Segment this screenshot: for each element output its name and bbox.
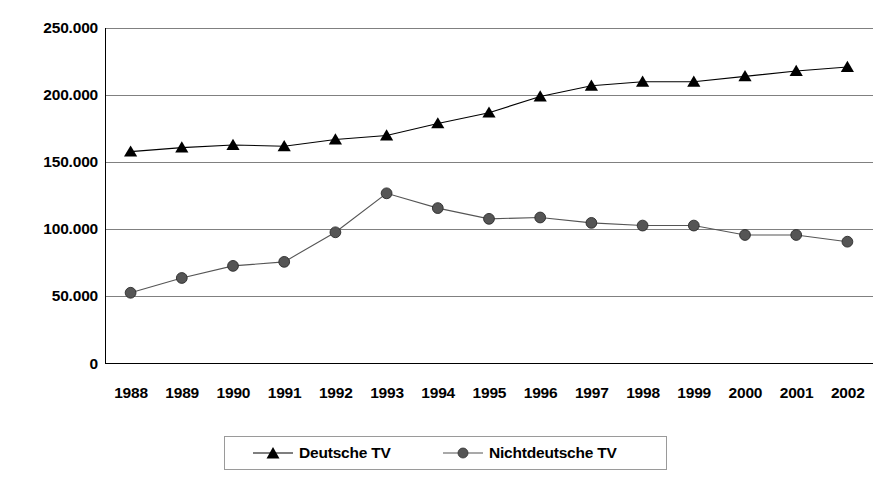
x-axis-tick-label: 1995 [463, 385, 515, 401]
x-axis-tick-label: 1998 [617, 385, 669, 401]
chart-container: 250.000 200.000 150.000 100.000 50.000 0… [0, 0, 885, 478]
series-line [131, 193, 848, 292]
y-axis-tick-label: 200.000 [0, 87, 98, 103]
plot-svg [105, 28, 873, 364]
axis-lines [105, 28, 873, 364]
data-point-circle [535, 212, 546, 223]
data-point-circle [586, 217, 597, 228]
data-point-circle [637, 220, 648, 231]
x-axis-tick-label: 1989 [156, 385, 208, 401]
x-axis-tick-label: 2000 [719, 385, 771, 401]
x-axis-tick-label: 1994 [412, 385, 464, 401]
data-point-circle [330, 227, 341, 238]
data-point-triangle [841, 61, 854, 72]
y-axis-tick-label: 50.000 [0, 288, 98, 304]
data-series [124, 61, 854, 157]
x-axis-tick-label: 1992 [310, 385, 362, 401]
data-series [125, 188, 853, 298]
data-point-circle [484, 213, 495, 224]
triangle-marker-icon [253, 445, 293, 461]
data-point-circle [279, 256, 290, 267]
x-axis-tick-label: 2002 [822, 385, 874, 401]
legend-label: Deutsche TV [299, 444, 391, 462]
plot-area [105, 28, 873, 364]
x-axis-tick-label: 1997 [566, 385, 618, 401]
data-point-circle [228, 260, 239, 271]
x-axis-tick-label: 1993 [361, 385, 413, 401]
circle-marker-icon [443, 445, 483, 461]
data-point-circle [688, 220, 699, 231]
data-point-triangle [226, 139, 239, 150]
data-point-circle [791, 230, 802, 241]
x-axis-tick-label: 1996 [515, 385, 567, 401]
legend-item-deutsche-tv: Deutsche TV [253, 437, 391, 469]
data-point-circle [176, 273, 187, 284]
y-axis-tick-label: 250.000 [0, 20, 98, 36]
legend-item-nichtdeutsche-tv: Nichtdeutsche TV [443, 437, 617, 469]
data-point-circle [381, 188, 392, 199]
data-point-circle [842, 236, 853, 247]
data-series-group [124, 61, 854, 298]
x-axis-tick-label: 1999 [668, 385, 720, 401]
x-axis-tick-label: 1988 [105, 385, 157, 401]
y-axis-tick-label: 0 [0, 356, 98, 372]
chart-legend: Deutsche TV Nichtdeutsche TV [224, 436, 667, 470]
data-point-triangle [482, 106, 495, 117]
gridlines [105, 28, 873, 364]
data-point-triangle [636, 75, 649, 86]
y-axis-tick-label: 150.000 [0, 154, 98, 170]
x-axis-labels: 1988 1989 1990 1991 1992 1993 1994 1995 … [105, 385, 873, 405]
y-axis-tick-label: 100.000 [0, 221, 98, 237]
y-axis-labels: 250.000 200.000 150.000 100.000 50.000 0 [0, 0, 98, 478]
x-axis-tick-label: 1991 [259, 385, 311, 401]
x-axis-tick-label: 2001 [771, 385, 823, 401]
data-point-circle [432, 203, 443, 214]
data-point-circle [125, 287, 136, 298]
x-axis-tick-label: 1990 [207, 385, 259, 401]
data-point-circle [740, 230, 751, 241]
legend-label: Nichtdeutsche TV [489, 444, 617, 462]
